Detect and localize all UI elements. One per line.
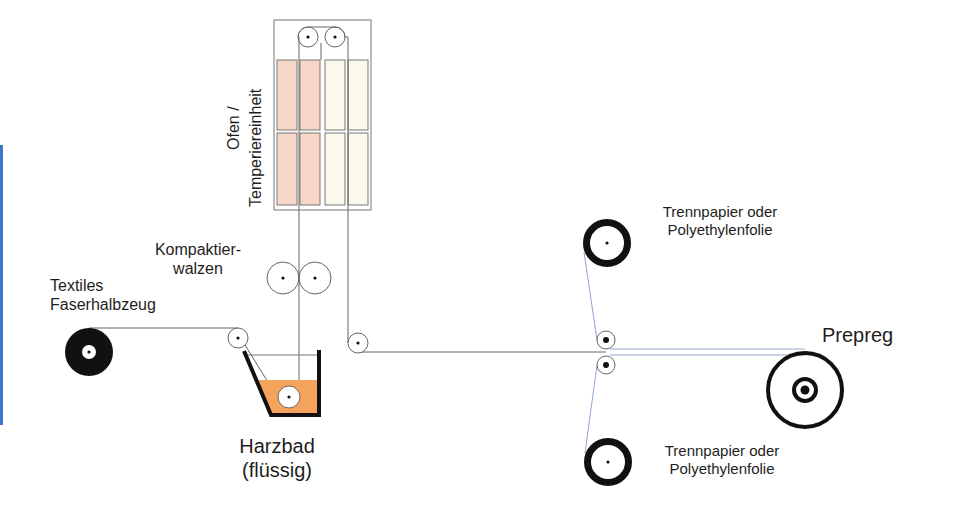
oven-label-line1: Ofen /	[224, 106, 243, 150]
oven-label-line2: Temperiereinheit	[246, 89, 265, 207]
fiber-web-path	[89, 27, 606, 400]
guide-roller-bath-inlet	[228, 328, 248, 348]
release-film-roll-bottom	[588, 442, 629, 483]
release-film-top-label: Trennpapier oder Polyethylenfolie	[640, 203, 800, 239]
prepreg-roll	[768, 353, 842, 427]
resin-bath-label-line2: (flüssig)	[222, 458, 332, 482]
fiber-label-line1: Textiles	[50, 276, 156, 295]
compaction-roller-left	[267, 262, 299, 294]
release-film-top-label-line1: Trennpapier oder	[640, 203, 800, 221]
nip-roller-bottom	[597, 356, 615, 374]
release-film-top-label-line2: Polyethylenfolie	[640, 221, 800, 239]
oven-unit	[274, 20, 371, 210]
prepreg-label: Prepreg	[822, 323, 893, 347]
release-film-bottom-label: Trennpapier oder Polyethylenfolie	[642, 442, 802, 478]
fiber-spool	[65, 328, 113, 376]
compaction-label: Kompaktier- walzen	[128, 240, 268, 278]
guide-roller-outlet	[348, 333, 368, 353]
compaction-label-line1: Kompaktier-	[128, 240, 268, 259]
resin-bath-label: Harzbad (flüssig)	[222, 434, 332, 482]
compaction-roller-right	[299, 262, 331, 294]
fiber-label: Textiles Faserhalbzeug	[50, 276, 156, 314]
release-film-roll-top	[587, 223, 628, 264]
resin-bath-label-line1: Harzbad	[222, 434, 332, 458]
fiber-label-line2: Faserhalbzeug	[50, 295, 156, 314]
release-film-bottom-label-line2: Polyethylenfolie	[642, 460, 802, 478]
bath-roller	[278, 386, 300, 408]
release-film-bottom-label-line1: Trennpapier oder	[642, 442, 802, 460]
release-film-paths	[584, 252, 805, 453]
nip-roller-top	[597, 331, 615, 349]
